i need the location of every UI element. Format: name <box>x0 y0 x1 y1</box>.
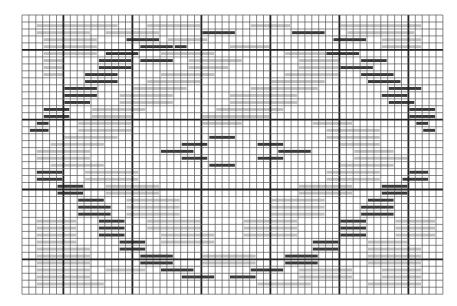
dark-stitch <box>64 87 97 90</box>
dark-stitch <box>161 150 194 153</box>
light-stitch <box>44 73 63 76</box>
dark-stitch <box>161 269 194 272</box>
dark-stitch <box>285 255 318 258</box>
dark-stitch <box>99 66 131 69</box>
dark-stitch <box>368 80 401 83</box>
dark-stitch <box>361 73 394 76</box>
dark-stitch <box>85 73 118 76</box>
dark-stitch <box>251 269 284 272</box>
dark-stitch <box>99 59 131 62</box>
dark-stitch <box>78 206 111 209</box>
dark-stitch <box>334 38 367 41</box>
dark-stitch <box>182 276 215 279</box>
dark-stitch <box>292 31 325 34</box>
dark-stitch <box>85 80 118 83</box>
light-stitch <box>44 66 63 69</box>
dark-stitch <box>127 38 160 41</box>
dark-stitch <box>361 206 394 209</box>
chart-grid <box>22 15 443 294</box>
dark-stitch <box>327 52 360 55</box>
dark-stitch <box>140 45 173 48</box>
dark-stitch <box>64 94 97 97</box>
pattern-chart <box>0 0 457 306</box>
dark-stitch <box>140 262 173 265</box>
dark-stitch <box>30 129 49 132</box>
dark-stitch <box>78 213 111 216</box>
dark-stitch <box>409 171 428 174</box>
dark-stitch <box>340 66 373 69</box>
dark-stitch <box>389 87 422 90</box>
dark-stitch <box>140 255 173 258</box>
dark-stitch <box>106 52 139 55</box>
light-stitch <box>44 59 63 62</box>
dark-stitch <box>285 262 318 265</box>
dark-stitch <box>278 150 311 153</box>
dark-stitch <box>202 31 235 34</box>
dark-stitch <box>361 213 394 216</box>
dark-stitch <box>140 59 173 62</box>
